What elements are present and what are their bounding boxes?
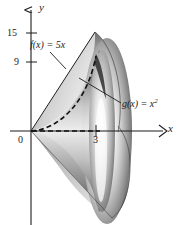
- y-tick-label-15: 15: [7, 28, 17, 38]
- function-g-label-exponent: 2: [154, 97, 158, 105]
- solid-of-revolution-figure: [0, 0, 182, 225]
- hole-highlight: [95, 98, 107, 202]
- x-axis-label: x: [168, 123, 173, 134]
- origin-label: 0: [18, 135, 23, 145]
- function-f-label: f(x) = 5x: [30, 40, 65, 50]
- solid-of-revolution-body: [31, 32, 132, 224]
- leader-line-f: [50, 52, 66, 69]
- y-axis-label: y: [39, 2, 44, 13]
- function-g-label: g(x) = x2: [122, 98, 158, 109]
- function-g-label-base: g(x) = x: [122, 98, 154, 109]
- x-tick-label-3: 3: [93, 135, 98, 145]
- y-tick-label-9: 9: [14, 57, 19, 67]
